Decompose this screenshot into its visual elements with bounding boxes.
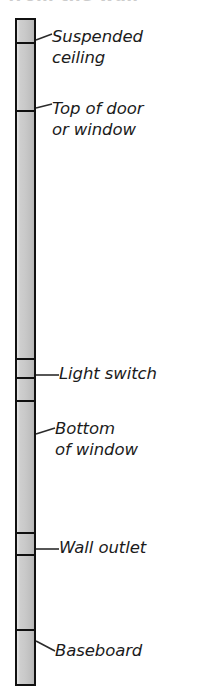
wall-divider-suspended-ceiling — [15, 42, 36, 44]
page-title: from the wall — [8, 0, 138, 4]
callout-label-bottom-of-window: Bottom of window — [55, 418, 138, 460]
wall-divider-baseboard — [15, 629, 36, 631]
wall-divider-light-switch-top — [15, 358, 36, 360]
callout-label-top-of-door-or-window: Top of door or window — [52, 98, 143, 140]
wall-section-diagram: from the wall Suspended ceiling Top of d… — [0, 0, 198, 696]
callout-label-suspended-ceiling: Suspended ceiling — [52, 26, 143, 68]
wall-column — [15, 18, 36, 686]
wall-column-shading — [17, 20, 34, 684]
wall-divider-bottom-of-window — [15, 400, 36, 402]
leader-line-suspended-ceiling — [36, 34, 52, 40]
wall-divider-top-of-door — [15, 110, 36, 112]
callout-label-wall-outlet: Wall outlet — [59, 537, 146, 558]
wall-divider-wall-outlet-top — [15, 532, 36, 534]
page-title-crop: from the wall — [0, 0, 198, 14]
leader-line-top-of-door-or-window — [36, 104, 52, 108]
leader-line-baseboard — [36, 641, 55, 651]
leader-line-bottom-of-window — [36, 428, 55, 434]
callout-label-baseboard: Baseboard — [55, 640, 142, 661]
wall-divider-light-switch-bottom — [15, 377, 36, 379]
wall-divider-wall-outlet-bottom — [15, 554, 36, 556]
callout-label-light-switch: Light switch — [59, 363, 157, 384]
